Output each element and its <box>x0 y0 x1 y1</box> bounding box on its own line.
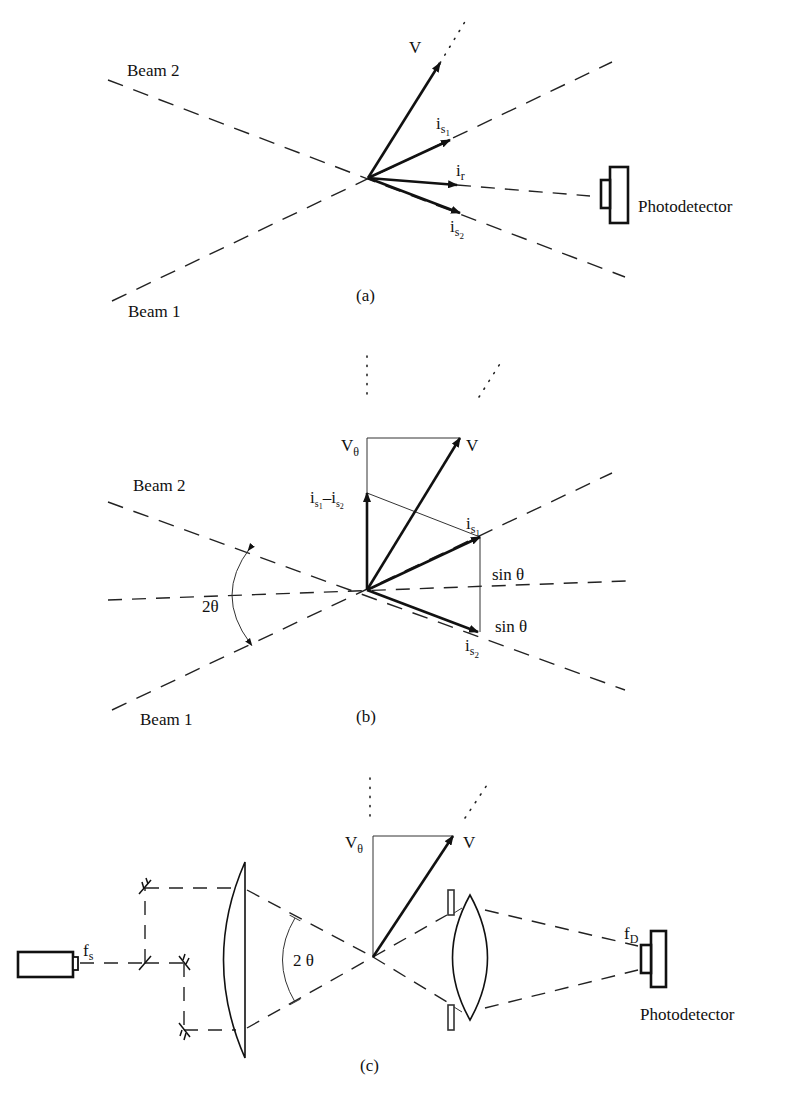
velocity-vector <box>373 836 453 957</box>
converging-beam-upper <box>247 890 373 957</box>
angle-tick-lower <box>290 999 301 1005</box>
source-frequency-label: fs <box>83 941 94 963</box>
is2-label: is2 <box>450 217 464 241</box>
collected-beam-lower <box>485 970 638 1008</box>
beam-1-line <box>112 473 612 710</box>
velocity-label: V <box>463 833 476 852</box>
beam-2-label: Beam 2 <box>133 476 185 495</box>
panel-a: Beam 2 Beam 1 V is1 ir is2 Photodetector… <box>108 20 733 321</box>
ir-label: ir <box>456 161 465 183</box>
vtheta-label: Vθ <box>341 436 359 459</box>
velocity-extension-dots <box>465 782 489 818</box>
photodetector-label: Photodetector <box>640 1005 735 1024</box>
photodetector-window-icon <box>641 945 651 973</box>
aperture-link-lower <box>454 1007 462 1012</box>
is2-label: is2 <box>465 636 479 660</box>
collecting-lens-icon <box>453 895 488 1020</box>
sin-theta-lower-label: sin θ <box>495 617 527 636</box>
is1-label: is1 <box>466 514 480 538</box>
mirror-bottom-icon <box>179 1023 190 1040</box>
velocity-extension-dots <box>479 359 503 397</box>
diverging-beam-lower <box>373 957 447 1002</box>
velocity-label: V <box>466 436 479 455</box>
panel-c: fs fD Vθ V 2 θ Photodetector (c) <box>18 778 735 1075</box>
velocity-label: V <box>409 38 422 57</box>
photodetector-window-icon <box>601 180 610 208</box>
aperture-stop-upper-icon <box>448 890 454 915</box>
aperture-stop-lower-icon <box>448 1005 454 1030</box>
mirror-top-icon <box>139 878 151 894</box>
photodetector-label: Photodetector <box>638 197 733 216</box>
beam-1-label: Beam 1 <box>128 302 180 321</box>
lda-diagram: Beam 2 Beam 1 V is1 ir is2 Photodetector… <box>0 0 786 1096</box>
photodetector-body-icon <box>610 167 628 223</box>
focusing-lens-icon <box>224 862 246 1058</box>
caption-a: (a) <box>356 286 375 305</box>
photodetector-body-icon <box>651 931 666 987</box>
difference-label: is1–is2 <box>310 488 344 511</box>
aperture-link-upper <box>454 908 462 913</box>
panel-b: Beam 2 Beam 1 Vθ V is1–is2 is1 is2 sin θ… <box>108 356 627 729</box>
detector-frequency-label: fD <box>624 924 639 946</box>
scatter-2-vector <box>367 590 478 632</box>
angle-label: 2θ <box>202 597 219 616</box>
velocity-extension-dots <box>440 20 466 63</box>
caption-c: (c) <box>360 1056 379 1075</box>
vtheta-label: Vθ <box>345 833 363 856</box>
reference-to-detector-line <box>457 185 590 196</box>
sin-theta-upper-label: sin θ <box>492 565 524 584</box>
is1-label: is1 <box>436 114 450 138</box>
collected-beam-upper <box>485 910 638 946</box>
caption-b: (b) <box>356 707 376 726</box>
beam-2-label: Beam 2 <box>127 61 179 80</box>
beam-1-label: Beam 1 <box>140 710 192 729</box>
beam-2-line <box>108 80 625 277</box>
diverging-beam-upper <box>373 915 447 957</box>
beam-1-line <box>112 62 612 301</box>
laser-aperture-icon <box>73 957 78 970</box>
angle-label: 2 θ <box>293 951 314 970</box>
laser-source-icon <box>18 952 73 977</box>
